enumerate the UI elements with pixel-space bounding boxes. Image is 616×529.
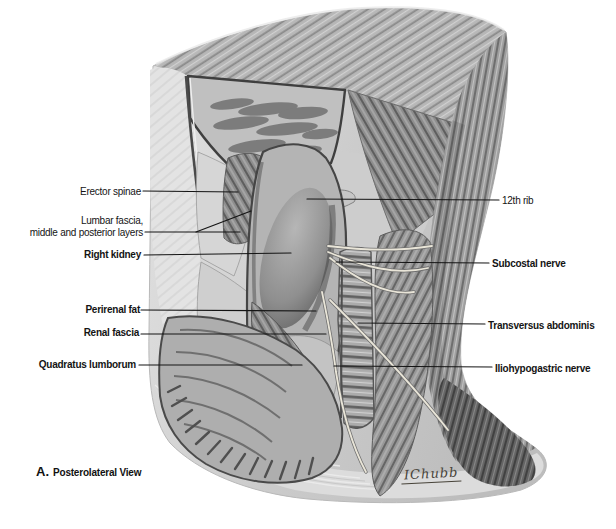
label-lumbar-fascia-line1: Lumbar fascia, bbox=[30, 215, 143, 227]
artist-signature: IChubb bbox=[401, 464, 462, 484]
figure-caption: A.Posterolateral View bbox=[36, 462, 141, 480]
label-lumbar-fascia: Lumbar fascia, middle and posterior laye… bbox=[30, 215, 143, 238]
label-lumbar-fascia-line2: middle and posterior layers bbox=[30, 227, 143, 239]
label-transversus-abdominis: Transversus abdominis bbox=[488, 320, 594, 331]
figure-panel: Erector spinae Lumbar fascia, middle and… bbox=[0, 0, 616, 529]
label-iliohypogastric-nerve: Iliohypogastric nerve bbox=[495, 363, 590, 374]
label-right-kidney: Right kidney bbox=[84, 249, 141, 260]
caption-letter: A. bbox=[36, 464, 49, 479]
label-perirenal-fat: Perirenal fat bbox=[85, 304, 140, 315]
label-renal-fascia: Renal fascia bbox=[84, 327, 139, 338]
label-quadratus-lumborum: Quadratus lumborum bbox=[39, 359, 136, 370]
caption-title: Posterolateral View bbox=[53, 467, 141, 478]
label-twelfth-rib: 12th rib bbox=[502, 195, 533, 206]
label-erector-spinae: Erector spinae bbox=[80, 186, 141, 197]
label-subcostal-nerve: Subcostal nerve bbox=[492, 258, 566, 269]
